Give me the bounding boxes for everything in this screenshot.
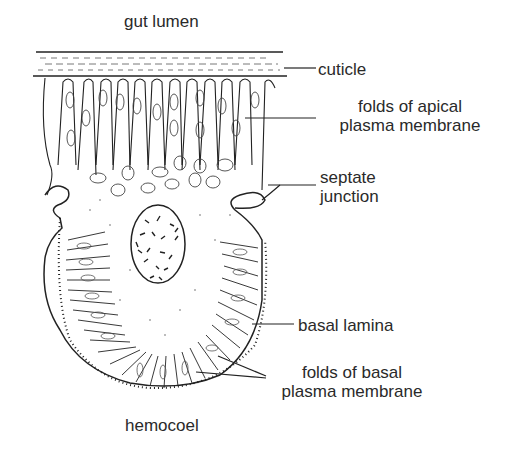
- basal-folds-label: folds of basal plasma membrane: [262, 363, 442, 401]
- basal-lamina-label: basal lamina: [298, 316, 393, 335]
- basal-folds-line1: folds of basal: [262, 363, 442, 382]
- septate-junction-label: septate junction: [320, 168, 379, 206]
- hemocoel-label: hemocoel: [125, 416, 199, 435]
- apical-folds-line2: plasma membrane: [320, 116, 500, 135]
- gut-lumen-label: gut lumen: [124, 12, 199, 31]
- septate-junction-line2: junction: [320, 187, 379, 206]
- septate-junction-line1: septate: [320, 168, 379, 187]
- apical-folds-line1: folds of apical: [320, 97, 500, 116]
- apical-folds-label: folds of apical plasma membrane: [320, 97, 500, 135]
- cuticle-label: cuticle: [318, 60, 366, 79]
- basal-folds-line2: plasma membrane: [262, 382, 442, 401]
